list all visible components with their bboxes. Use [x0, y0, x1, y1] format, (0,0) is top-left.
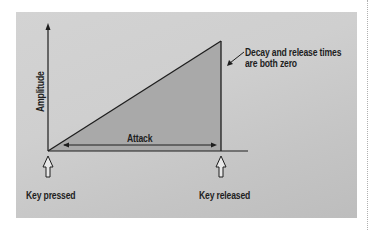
annotation-text: Decay and release times are both zero [245, 47, 341, 69]
annotation-line-2: are both zero [245, 58, 341, 69]
key-released-label: Key released [199, 189, 250, 201]
annotation-pointer-line [230, 52, 244, 63]
key-released-arrow-icon [216, 156, 226, 177]
y-axis-arrowhead-icon [46, 23, 51, 30]
key-pressed-label: Key pressed [26, 189, 75, 201]
attack-label: Attack [127, 132, 152, 144]
key-pressed-arrow-icon [43, 156, 53, 177]
y-axis-label: Amplitude [34, 71, 46, 112]
